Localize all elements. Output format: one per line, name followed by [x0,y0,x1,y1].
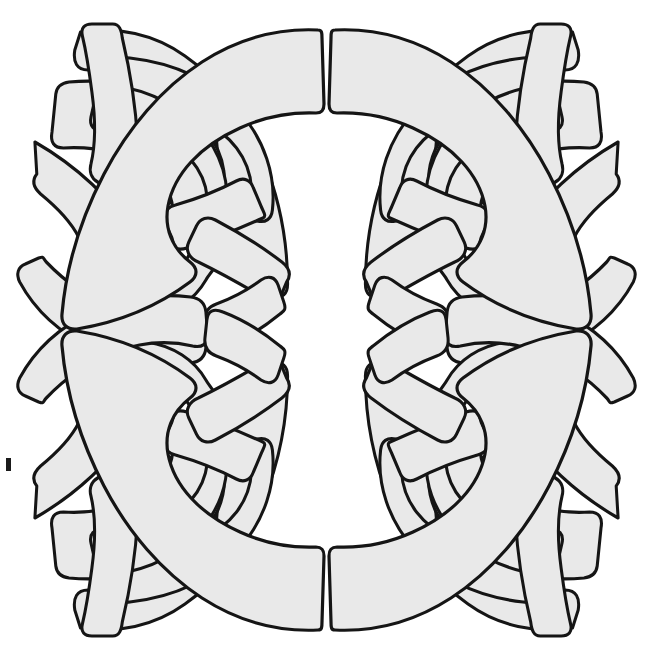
left-half [18,24,324,636]
celtic-knot-illustration: Celtic Knotwork Roundel A circular Celti… [0,0,653,654]
edge-speck [6,458,11,471]
celtic-knot-artboard: Celtic Knotwork Roundel A circular Celti… [0,0,653,654]
right-half [329,24,635,636]
